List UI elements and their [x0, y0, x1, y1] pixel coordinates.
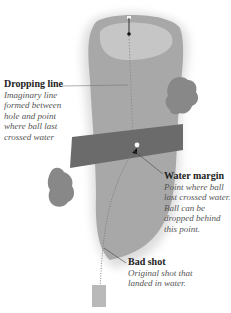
bad-shot-title: Bad shot [128, 257, 198, 268]
dropping-line-description: Imaginary line formed between hole and p… [4, 90, 68, 143]
tree-right [166, 77, 199, 114]
hole-cup [127, 32, 131, 36]
dropping-line-title: Dropping line [4, 79, 68, 90]
dropping-line-label: Dropping line Imaginary line formed betw… [4, 79, 68, 142]
water-margin-description: Point where ball last crossed water. Bal… [164, 182, 231, 235]
ball-water-crossing [135, 143, 140, 148]
bad-shot-description: Original shot that landed in water. [128, 268, 198, 289]
bad-shot-label: Bad shot Original shot that landed in wa… [128, 257, 198, 289]
tree-left [48, 168, 74, 207]
water-margin-label: Water margin Point where ball last cross… [164, 171, 231, 234]
water-margin-title: Water margin [164, 171, 231, 182]
tee-box [92, 285, 106, 307]
